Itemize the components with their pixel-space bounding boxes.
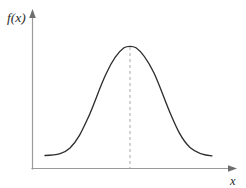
y-axis-arrowhead: [29, 9, 36, 18]
bell-curve-path: [45, 46, 212, 156]
y-axis-label: f(x): [7, 10, 26, 25]
figure-canvas: f(x) x: [0, 0, 246, 188]
x-axis-label: x: [229, 174, 236, 188]
x-axis-arrowhead: [228, 165, 237, 172]
bell-curve-figure: f(x) x: [0, 0, 246, 188]
